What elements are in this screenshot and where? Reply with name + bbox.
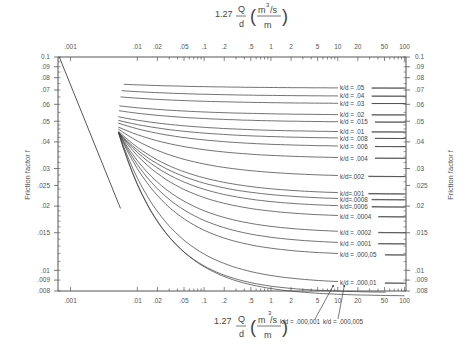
kd-label: k/d = .000,01 — [340, 279, 377, 286]
x-axis-title-top: 1.27 Q d ( m 3 /s m ) — [215, 2, 288, 30]
x-tick-label-bottom: 5 — [316, 297, 320, 304]
y-tick-label-left: .08 — [41, 74, 50, 81]
x-tick-label-bottom: .01 — [133, 297, 142, 304]
y-tick-label-right: .015 — [415, 229, 428, 236]
laminar-line — [59, 57, 120, 208]
y-tick-label-left: .02 — [41, 202, 50, 209]
svg-text:(: ( — [250, 6, 256, 26]
x-tick-label-top: .001 — [64, 43, 77, 50]
kd-label: k/d = .0002 — [340, 229, 372, 236]
x-tick-label-bottom: 10 — [334, 297, 342, 304]
kd-label: k/d=.0006 — [340, 203, 368, 210]
x-title-unit-m: m — [258, 5, 266, 15]
y-axis-left-ticks: 0.1.09.08.07.06.05.04.03.025.02.015.01.0… — [37, 53, 60, 294]
y-axis-title-right: Friction factor f — [446, 149, 455, 200]
y-tick-label-left: .03 — [41, 165, 50, 172]
x-tick-label-top: 5 — [316, 43, 320, 50]
x-tick-label-top: .2 — [222, 43, 228, 50]
y-tick-label-left: .05 — [41, 118, 50, 125]
y-tick-label-right: .05 — [415, 118, 424, 125]
x-tick-label-top: 20 — [354, 43, 362, 50]
x-title-unit-m-b: m — [258, 315, 266, 325]
kd-label: k/d = .0001 — [340, 240, 372, 247]
y-tick-label-right: .009 — [415, 276, 428, 283]
y-tick-label-left: .015 — [37, 229, 50, 236]
y-tick-label-left: .04 — [41, 138, 50, 145]
x-tick-label-bottom: .001 — [64, 297, 77, 304]
y-tick-label-right: .03 — [415, 165, 424, 172]
y-tick-label-right: .01 — [415, 267, 424, 274]
x-tick-label-bottom: .2 — [222, 297, 228, 304]
y-tick-label-left: .09 — [41, 63, 50, 70]
y-tick-label-right: .08 — [415, 74, 424, 81]
kd-label: k/d = .03 — [340, 100, 365, 107]
x-tick-label-bottom: 20 — [354, 297, 362, 304]
y-tick-label-right: 0.1 — [415, 53, 424, 60]
x-title-den-b: d — [239, 329, 244, 339]
x-axis-top-ticks: .001.01.02.05.1.2.5125102050100 — [64, 43, 410, 61]
svg-text:(: ( — [250, 317, 256, 337]
x-tick-label-bottom: .05 — [179, 297, 188, 304]
x-title-den: d — [239, 19, 244, 29]
x-tick-label-bottom: .02 — [153, 297, 162, 304]
svg-text:): ) — [282, 6, 288, 26]
y-tick-label-left: .06 — [41, 101, 50, 108]
y-tick-label-left: .01 — [41, 267, 50, 274]
bottom-callout-label: k/d = .000,005 — [323, 318, 364, 325]
kd-labels: k/d = .05k/d = .04k/d = .03k/d = .02k/d … — [338, 84, 406, 286]
x-title-unit-den: m — [264, 20, 272, 30]
y-tick-label-right: .06 — [415, 101, 424, 108]
x-tick-label-top: .01 — [133, 43, 142, 50]
kd-label: k/d = .004 — [340, 155, 368, 162]
x-tick-label-bottom: 2 — [289, 297, 293, 304]
bottom-callout-label: k/d = .000,001 — [280, 318, 321, 325]
kd-label: k/d = .04 — [340, 92, 365, 99]
y-tick-label-left: .008 — [37, 287, 50, 294]
x-tick-label-top: .05 — [179, 43, 188, 50]
kd-label: k/d = .006 — [340, 143, 368, 150]
y-tick-label-left: 0.1 — [41, 53, 50, 60]
kd-label: k/d=.0008 — [340, 196, 368, 203]
x-title-unit-rest: /s — [270, 5, 278, 15]
x-title-coef-b: 1.27 — [214, 316, 232, 326]
y-tick-label-right: .02 — [415, 202, 424, 209]
y-axis-right-ticks: 0.1.09.08.07.06.05.04.03.025.02.015.01.0… — [404, 53, 429, 294]
x-tick-label-top: .02 — [153, 43, 162, 50]
x-title-coef: 1.27 — [215, 9, 233, 19]
x-axis-title-bottom: 1.27 Q d ( m 3 /s m ) — [214, 310, 288, 340]
y-tick-label-right: .07 — [415, 86, 424, 93]
kd-label: k/d = .015 — [340, 118, 368, 125]
x-title-unit-rest-b: /s — [270, 315, 278, 325]
x-title-num-b: Q — [238, 314, 245, 324]
x-axis-bottom-ticks: .001.01.02.05.1.2.5125102050100 — [64, 287, 410, 304]
y-tick-label-left: .025 — [37, 182, 50, 189]
x-tick-label-bottom: .5 — [248, 297, 254, 304]
x-tick-label-bottom: 1 — [269, 297, 273, 304]
y-tick-label-left: .009 — [37, 276, 50, 283]
y-axis-title-left: Friction factor f — [23, 149, 32, 200]
friction-factor-chart: .001.01.02.05.1.2.5125102050100 .001.01.… — [0, 0, 461, 356]
y-tick-label-left: .07 — [41, 86, 50, 93]
kd-label: k/d = .000,05 — [340, 251, 377, 258]
y-tick-label-right: .025 — [415, 182, 428, 189]
y-tick-label-right: .04 — [415, 138, 424, 145]
x-tick-label-bottom: 50 — [381, 297, 389, 304]
x-title-num: Q — [238, 4, 245, 14]
x-tick-label-top: 50 — [381, 43, 389, 50]
kd-label: k/d = .0004 — [340, 213, 372, 220]
x-tick-label-top: .1 — [201, 43, 207, 50]
x-tick-label-top: 10 — [334, 43, 342, 50]
x-tick-label-bottom: .1 — [201, 297, 207, 304]
x-title-unit-den-b: m — [264, 330, 272, 340]
x-tick-label-top: 2 — [289, 43, 293, 50]
y-tick-label-right: .09 — [415, 63, 424, 70]
kd-label: k/d=.002 — [340, 173, 365, 180]
kd-label: k/d = .02 — [340, 111, 365, 118]
x-tick-label-top: 1 — [269, 43, 273, 50]
x-tick-label-top: 100 — [399, 43, 410, 50]
x-tick-label-top: .5 — [248, 43, 254, 50]
x-tick-label-bottom: 100 — [399, 297, 410, 304]
kd-label: k/d = .05 — [340, 84, 365, 91]
y-tick-label-right: .008 — [415, 287, 428, 294]
kd-label: k/d = .008 — [340, 135, 368, 142]
